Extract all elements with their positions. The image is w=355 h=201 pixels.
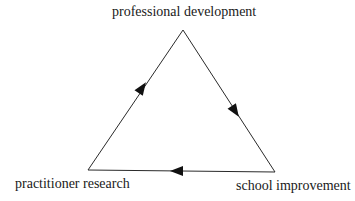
arrowhead-down-right-icon: [228, 103, 243, 119]
edge-left-to-top: [88, 30, 183, 170]
node-label-practitioner-research: practitioner research: [15, 177, 130, 191]
arrowhead-left-icon: [170, 166, 183, 176]
cycle-diagram: professional development school improvem…: [0, 0, 355, 201]
node-label-professional-development: professional development: [112, 5, 256, 19]
triangle-cycle-graphic: [0, 0, 355, 201]
node-label-school-improvement: school improvement: [236, 179, 351, 193]
edge-top-to-right: [183, 30, 275, 172]
